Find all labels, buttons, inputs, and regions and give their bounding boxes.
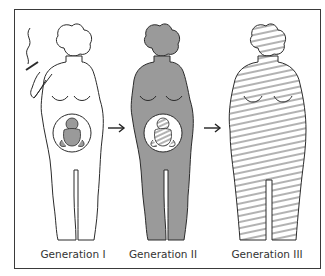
generation-3-label: Generation III bbox=[222, 248, 312, 260]
generation-2-figure bbox=[131, 24, 193, 240]
generation-3-figure bbox=[229, 24, 306, 240]
generations-illustration bbox=[0, 0, 325, 276]
smoke-icon bbox=[27, 28, 30, 64]
arrow-right-icon bbox=[108, 124, 124, 132]
generation-1-label: Generation I bbox=[28, 248, 118, 260]
arrow-right-icon bbox=[204, 124, 220, 132]
generation-2-label: Generation II bbox=[118, 248, 208, 260]
generation-1-figure bbox=[26, 24, 103, 240]
